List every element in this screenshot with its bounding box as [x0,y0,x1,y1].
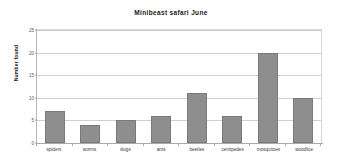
x-tick-label: centipedes [215,147,251,152]
bar [151,116,171,143]
x-axis-line [36,143,323,144]
bar-slot [37,30,73,143]
bar [45,111,65,143]
x-tick-mark [143,143,144,146]
bar [116,120,136,143]
x-tick-mark [249,143,250,146]
bar-chart: Minibeast safari June Number found 25201… [0,0,342,166]
y-tick-label: 5 [31,118,34,123]
x-tick-label: spiders [36,147,72,152]
x-tick-mark [72,143,73,146]
bar-slot [108,30,144,143]
bar-slot [215,30,251,143]
x-tick-mark [320,143,321,146]
bar-slot [144,30,180,143]
bar-slot [286,30,322,143]
x-tick-label: woodlice [286,147,322,152]
y-tick-label: 0 [31,141,34,146]
bar-slot [73,30,109,143]
x-tick-label: beetles [179,147,215,152]
x-tick-mark [178,143,179,146]
bar [80,125,100,143]
x-tick-label: slugs [108,147,144,152]
x-tick-label: mosquitoes [251,147,287,152]
x-axis-labels: spiderswormsslugsantsbeetlescentipedesmo… [36,147,322,152]
y-tick-label: 15 [29,73,34,78]
x-tick-label: ants [143,147,179,152]
bar [258,53,278,143]
y-tick-label: 25 [29,28,34,33]
x-tick-label: worms [72,147,108,152]
bar [187,93,207,143]
bar [293,98,313,143]
bar-series [37,30,321,143]
chart-title: Minibeast safari June [0,9,342,16]
x-tick-mark [36,143,37,146]
y-tick-label: 10 [29,95,34,100]
y-axis-title: Number found [13,31,19,95]
x-tick-mark [214,143,215,146]
bar-slot [179,30,215,143]
x-tick-mark [285,143,286,146]
x-tick-mark [107,143,108,146]
bar-slot [250,30,286,143]
plot-area: 2520151050 [36,29,322,143]
y-tick-label: 20 [29,50,34,55]
bar [222,116,242,143]
